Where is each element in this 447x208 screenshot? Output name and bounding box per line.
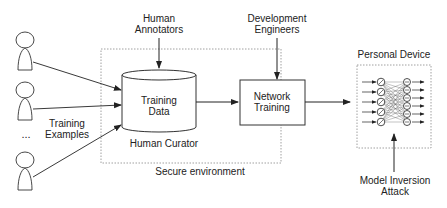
secure-environment-label: Secure environment: [145, 166, 255, 177]
development-engineers-line1: Development: [242, 13, 312, 24]
model-inversion-attack-label: Model Inversion Attack: [353, 175, 437, 197]
ellipsis-label: ...: [16, 129, 36, 140]
human-annotators-line2: Annotators: [129, 24, 189, 35]
model-inversion-line2: Attack: [353, 186, 437, 197]
arrow-person1-to-data: [33, 62, 121, 90]
development-engineers-label: Development Engineers: [242, 13, 312, 35]
arrow-person2-to-data: [33, 105, 121, 109]
model-inversion-line1: Model Inversion: [353, 175, 437, 186]
training-data-line2: Data: [134, 106, 184, 117]
human-annotators-line1: Human: [129, 13, 189, 24]
training-examples-line2: Examples: [42, 129, 92, 140]
training-examples-label: Training Examples: [42, 118, 92, 140]
human-curator-label: Human Curator: [124, 138, 204, 149]
neural-network-icon: [362, 78, 424, 126]
network-training-line2: Training: [242, 102, 302, 113]
human-annotators-label: Human Annotators: [129, 13, 189, 35]
person-icon-2: [16, 82, 34, 120]
network-training-line1: Network: [242, 91, 302, 102]
training-examples-line1: Training: [42, 118, 92, 129]
personal-device-label: Personal Device: [354, 49, 434, 60]
training-data-label: Training Data: [134, 95, 184, 117]
person-icon-1: [16, 32, 34, 70]
training-data-line1: Training: [134, 95, 184, 106]
development-engineers-line2: Engineers: [242, 24, 312, 35]
network-training-label: Network Training: [242, 91, 302, 113]
person-icon-3: [16, 152, 34, 190]
